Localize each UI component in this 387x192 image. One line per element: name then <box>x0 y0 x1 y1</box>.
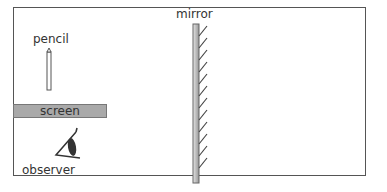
observer-label: observer <box>22 164 75 176</box>
mirror-icon <box>193 24 207 183</box>
eye-icon <box>56 128 80 158</box>
screen-label: screen <box>40 104 80 118</box>
pencil-icon <box>47 48 51 90</box>
mirror-hatching <box>199 26 207 168</box>
screen: screen <box>13 104 107 118</box>
pencil-label: pencil <box>33 33 69 45</box>
mirror-label: mirror <box>176 8 213 20</box>
